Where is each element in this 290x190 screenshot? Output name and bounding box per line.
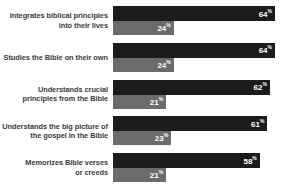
- bar-primary-value: 64%: [259, 9, 272, 19]
- category-label-line1: Understands crucial: [38, 85, 108, 94]
- category-label-line2: into their lives: [59, 21, 108, 30]
- bar-primary-value: 61%: [251, 119, 264, 129]
- category-label-line2: the gospel in the Bible: [30, 131, 108, 140]
- category-label-line1: Memorizes Bible verses: [25, 158, 108, 167]
- bar-secondary: 21%: [113, 95, 166, 109]
- bar-primary: 62%: [113, 80, 270, 95]
- category-label-line2: principles from the Bible: [23, 94, 108, 103]
- bar-pair: 58% 21%: [113, 153, 280, 182]
- category-label: Memorizes Bible verses or creeds: [0, 158, 113, 176]
- bar-secondary-value: 21%: [150, 170, 163, 180]
- bar-primary: 64%: [113, 43, 275, 58]
- bar-secondary: 24%: [113, 58, 174, 72]
- chart-row: Integrates biblical principles into thei…: [0, 6, 280, 35]
- category-label: Integrates biblical principles into thei…: [0, 11, 113, 29]
- bar-primary: 58%: [113, 153, 260, 168]
- bar-secondary: 21%: [113, 168, 166, 182]
- bar-pair: 61% 23%: [113, 116, 280, 145]
- bar-primary-value: 58%: [243, 156, 256, 166]
- chart-row: Memorizes Bible verses or creeds 58% 21%: [0, 153, 280, 182]
- bar-secondary-value: 23%: [155, 133, 168, 143]
- chart-row: Understands crucial principles from the …: [0, 80, 280, 109]
- chart-row: Understands the big picture of the gospe…: [0, 116, 280, 145]
- chart-row: Studies the Bible on their own 64% 24%: [0, 43, 280, 72]
- bar-primary-value: 64%: [259, 45, 272, 55]
- bar-secondary: 23%: [113, 131, 171, 145]
- category-label: Studies the Bible on their own: [0, 53, 113, 62]
- bar-secondary-value: 24%: [157, 60, 170, 70]
- category-label-line1: Studies the Bible on their own: [4, 53, 108, 62]
- bar-primary: 61%: [113, 116, 267, 131]
- category-label-line1: Integrates biblical principles: [10, 11, 108, 20]
- bar-pair: 62% 21%: [113, 80, 280, 109]
- bar-secondary-value: 21%: [150, 97, 163, 107]
- bar-secondary-value: 24%: [157, 23, 170, 33]
- category-label: Understands crucial principles from the …: [0, 85, 113, 103]
- grouped-bar-chart: Integrates biblical principles into thei…: [0, 0, 290, 190]
- bar-pair: 64% 24%: [113, 6, 280, 35]
- bar-pair: 64% 24%: [113, 43, 280, 72]
- category-label-line1: Understands the big picture of: [2, 122, 108, 131]
- category-label-line2: or creeds: [75, 168, 108, 177]
- category-label: Understands the big picture of the gospe…: [0, 122, 113, 140]
- bar-primary: 64%: [113, 6, 275, 21]
- bar-secondary: 24%: [113, 21, 174, 35]
- bar-primary-value: 62%: [254, 82, 267, 92]
